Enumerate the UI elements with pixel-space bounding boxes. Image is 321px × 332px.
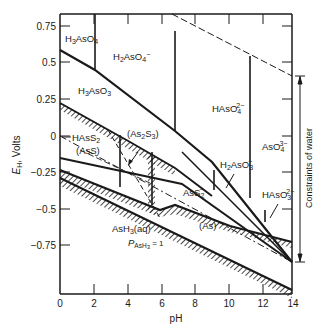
x-tick-label: 14 <box>287 298 299 309</box>
label-aso4: AsO43− <box>262 140 287 153</box>
label-haso3: HAsO32− <box>262 188 294 201</box>
y-tick-label: 0.25 <box>37 94 57 105</box>
y-tick-label: 0 <box>50 131 56 142</box>
svg-text:EH, Volts: EH, Volts <box>11 136 23 175</box>
label-as: (As) <box>199 220 216 231</box>
y-axis-title: EH, Volts <box>11 136 23 175</box>
label-ass2: AsS2− <box>183 186 204 199</box>
label-h2aso4: H2AsO4− <box>113 51 150 63</box>
x-tick-label: 4 <box>125 298 131 309</box>
label-ass: (AsS) <box>76 145 100 156</box>
x-axis-title: pH <box>170 313 183 324</box>
label-pash3: PAsH3 = 1 <box>128 237 164 250</box>
y-tick-label: 0.5 <box>42 57 56 68</box>
water-upper-boundary <box>172 14 292 76</box>
label-h3aso3: H3AsO3 <box>78 85 111 97</box>
x-tick-label: 12 <box>257 298 269 309</box>
x-tick-labels: 0 2 4 6 8 10 12 14 <box>57 298 299 309</box>
x-tick-label: 10 <box>223 298 235 309</box>
x-tick-label: 8 <box>192 298 198 309</box>
label-h3aso4: H3AsO4 <box>65 33 98 45</box>
y-tick-label: 0.75 <box>37 21 57 32</box>
y-tick-label: −0.75 <box>31 240 57 251</box>
label-as2s3: (As2S3) <box>127 128 159 140</box>
haso3-pointer <box>270 204 278 218</box>
constraints-of-water-label: Constraints of water <box>304 128 314 208</box>
y-tick-labels: 0.75 0.5 0.25 0 −0.25 −0.5 −0.75 <box>31 21 57 251</box>
y-tick-label: −0.25 <box>31 167 57 178</box>
label-haso4: HAsO42− <box>212 102 244 115</box>
y-tick-label: −0.5 <box>36 204 56 215</box>
x-tick-label: 2 <box>91 298 97 309</box>
x-tick-label: 6 <box>159 298 165 309</box>
label-h2aso3: H2AsO3− <box>220 158 253 171</box>
as-upper-line <box>60 170 292 242</box>
pourbaix-diagram: 0 2 4 6 8 10 12 14 0.75 0.5 0.25 0 −0.25… <box>0 0 321 332</box>
x-tick-label: 0 <box>57 298 63 309</box>
label-hass2: HAsS2 <box>72 132 100 144</box>
arsenate-arsenite-boundary <box>60 50 292 262</box>
label-ash3aq: AsH3(aq) <box>112 223 151 235</box>
